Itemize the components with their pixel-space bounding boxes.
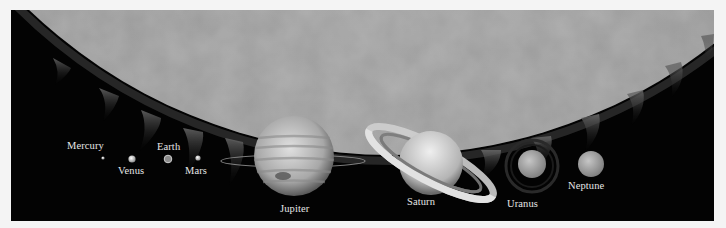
planet-label-saturn: Saturn bbox=[407, 196, 435, 207]
mercury-planet bbox=[101, 156, 104, 159]
planet-label-uranus: Uranus bbox=[507, 198, 538, 209]
solar-system-illustration: Mercury Venus Earth Mars Jupiter Saturn … bbox=[11, 10, 714, 221]
uranus-planet bbox=[506, 140, 558, 192]
venus-planet bbox=[128, 155, 135, 162]
sun-and-planets-graphic bbox=[11, 10, 714, 221]
planet-label-neptune: Neptune bbox=[568, 180, 604, 191]
neptune-planet bbox=[578, 151, 604, 177]
cropped-caption-fragment bbox=[0, 221, 726, 228]
mars-planet bbox=[195, 155, 200, 160]
planet-label-earth: Earth bbox=[157, 141, 180, 152]
planet-label-jupiter: Jupiter bbox=[280, 203, 309, 214]
planet-label-venus: Venus bbox=[118, 165, 144, 176]
earth-planet bbox=[164, 155, 172, 163]
planet-label-mars: Mars bbox=[185, 165, 207, 176]
planet-label-mercury: Mercury bbox=[67, 140, 104, 151]
